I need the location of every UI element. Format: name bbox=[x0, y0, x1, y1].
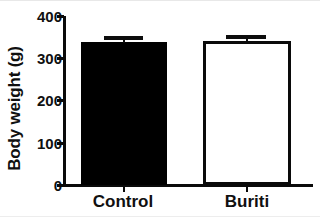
bar-control bbox=[81, 42, 167, 185]
y-tick-label-0: 0 bbox=[16, 178, 62, 193]
y-tick-label-100: 100 bbox=[16, 136, 62, 151]
x-axis-label-control: Control bbox=[73, 192, 173, 212]
y-tick-label-200: 200 bbox=[16, 93, 62, 108]
error-bar-cap-control bbox=[104, 36, 143, 40]
x-axis-label-buriti: Buriti bbox=[200, 192, 294, 212]
y-tick-label-300: 300 bbox=[16, 51, 62, 66]
bar-buriti bbox=[203, 41, 291, 185]
error-bar-cap-buriti bbox=[226, 35, 266, 39]
y-tick-label-400: 400 bbox=[16, 9, 62, 24]
bar-chart-figure: Body weight (g) 400 300 200 100 0 Contro… bbox=[0, 0, 320, 217]
y-tick-label-group: 400 300 200 100 0 bbox=[16, 0, 62, 217]
y-axis-line bbox=[63, 16, 66, 187]
